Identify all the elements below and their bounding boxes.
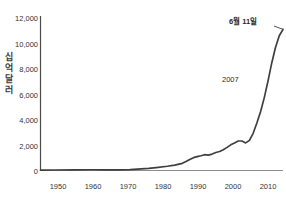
axis-lines	[41, 16, 284, 171]
annotation-leader-line	[274, 26, 283, 29]
data-series-line	[41, 29, 284, 170]
chart-plot-area	[0, 0, 286, 197]
chart-container: · · · · · · · · · ·· ·· ·· ·· · · 십 억 달 …	[0, 0, 286, 197]
